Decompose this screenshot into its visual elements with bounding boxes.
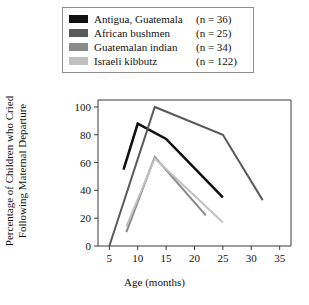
y-tick-label-100: 100	[75, 101, 92, 113]
legend-swatch-guatemalan-indian	[69, 43, 88, 51]
legend-swatch-israeli-kibbutz	[69, 57, 88, 65]
chart-svg: 0204060801005101520253035	[75, 96, 293, 272]
legend-n-african-bushmen: (n = 25)	[196, 27, 248, 39]
x-tick-label-35: 35	[274, 252, 286, 264]
series-line-israeli-kibbutz	[126, 158, 223, 226]
x-tick-label-5: 5	[107, 252, 113, 264]
legend-item-israeli-kibbutz: Israeli kibbutz (n = 122)	[69, 54, 248, 68]
legend-label-african-bushmen: African bushmen	[94, 27, 196, 39]
y-tick-label-60: 60	[80, 157, 92, 169]
legend-item-guatemalan-indian: Guatemalan indian (n = 34)	[69, 40, 248, 54]
legend-label-antigua-guatemala: Antigua, Guatemala	[94, 13, 196, 25]
series-line-african-bushmen	[109, 107, 262, 246]
legend-n-antigua-guatemala: (n = 36)	[196, 13, 248, 25]
legend-swatch-antigua-guatemala	[69, 15, 88, 23]
y-tick-label-80: 80	[80, 129, 92, 141]
plot-area: Percentage of Children who Cried Followi…	[0, 84, 309, 305]
x-tick-label-30: 30	[246, 252, 258, 264]
legend-swatch-african-bushmen	[69, 29, 88, 37]
legend-n-israeli-kibbutz: (n = 122)	[196, 55, 248, 67]
x-tick-label-25: 25	[217, 252, 229, 264]
legend-n-guatemalan-indian: (n = 34)	[196, 41, 248, 53]
x-tick-label-10: 10	[132, 252, 144, 264]
series-line-antigua-guatemala	[124, 124, 223, 198]
y-tick-label-40: 40	[80, 184, 92, 196]
x-tick-label-15: 15	[161, 252, 173, 264]
plot-canvas: 0204060801005101520253035	[75, 96, 293, 272]
y-tick-label-20: 20	[80, 212, 92, 224]
chart-legend: Antigua, Guatemala (n = 36) African bush…	[62, 7, 254, 73]
legend-item-antigua-guatemala: Antigua, Guatemala (n = 36)	[69, 12, 248, 26]
y-tick-label-0: 0	[86, 240, 92, 252]
legend-label-israeli-kibbutz: Israeli kibbutz	[94, 55, 196, 67]
x-axis-title: Age (months)	[0, 276, 309, 288]
chart-figure: Antigua, Guatemala (n = 36) African bush…	[0, 0, 309, 305]
legend-item-african-bushmen: African bushmen (n = 25)	[69, 26, 248, 40]
y-axis-title: Percentage of Children who Cried Followi…	[3, 81, 29, 261]
legend-label-guatemalan-indian: Guatemalan indian	[94, 41, 196, 53]
x-tick-label-20: 20	[189, 252, 201, 264]
